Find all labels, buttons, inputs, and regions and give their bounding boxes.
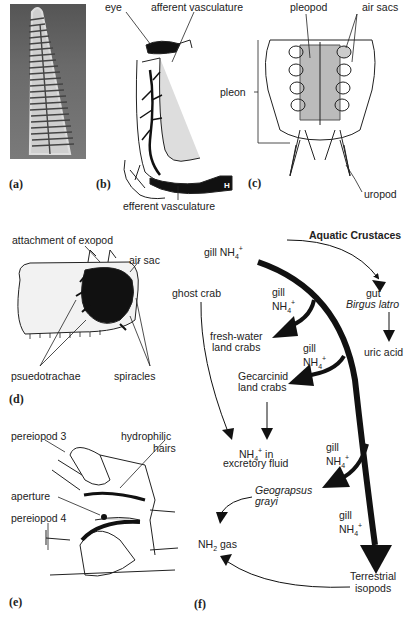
label-land-crabs-1: land crabs xyxy=(212,341,260,353)
label-aperture: aperture xyxy=(11,490,50,502)
label-hairs: hairs xyxy=(153,442,176,454)
label-nh4-3: NH4+ xyxy=(326,452,349,472)
pleon-drawing xyxy=(265,40,375,176)
label-uric-acid: uric acid xyxy=(364,346,403,358)
label-isopods: isopods xyxy=(355,582,391,594)
label-spiracles: spiracles xyxy=(114,370,155,382)
label-ghost-crab: ghost crab xyxy=(172,287,221,299)
label-grayi: grayi xyxy=(255,495,278,507)
panel-label-b: (b) xyxy=(96,177,111,192)
label-nh4-1: NH4+ xyxy=(272,297,295,317)
panel-label-d: (d) xyxy=(9,392,24,407)
label-air-sac: air sac xyxy=(129,254,160,266)
label-terrestrial: Terrestrial xyxy=(350,570,396,582)
aperture-dot xyxy=(101,514,107,520)
label-pereiopod-3: pereiopod 3 xyxy=(11,430,66,442)
label-pseudotrachae: psuedotrachae xyxy=(11,370,80,382)
label-pereiopod-4: pereiopod 4 xyxy=(11,512,66,524)
panel-label-e: (e) xyxy=(9,595,22,610)
pleopod-air-sac-drawing xyxy=(18,250,138,339)
label-nh2-gas: NH2 gas xyxy=(198,538,237,555)
label-attachment-of-exopod: attachment of exopod xyxy=(12,234,113,246)
label-efferent-vasculature: efferent vasculature xyxy=(123,200,215,212)
label-air-sacs: air sacs xyxy=(362,1,398,13)
label-afferent-vasculature: afferent vasculature xyxy=(151,1,243,13)
label-birgus-latro: Birgus latro xyxy=(346,298,399,310)
h-marker: H xyxy=(224,181,230,190)
label-gill-nh4-top: gill NH4+ xyxy=(204,243,243,263)
label-eye: eye xyxy=(105,1,122,13)
label-hydrophilic: hydrophilic xyxy=(121,430,171,442)
panel-label-f: (f) xyxy=(194,597,206,612)
label-pleon: pleon xyxy=(220,86,246,98)
gill-section-drawing xyxy=(124,40,232,199)
label-nh4-4: NH4+ xyxy=(339,520,362,540)
label-pleopod: pleopod xyxy=(290,1,327,13)
label-nh4-2: NH4+ xyxy=(303,353,326,373)
label-land-crabs-2: land crabs xyxy=(238,381,286,393)
label-aquatic-crustaces: Aquatic Crustaces xyxy=(309,229,401,241)
label-excretory-fluid: excretory fluid xyxy=(223,457,288,469)
panel-label-c: (c) xyxy=(248,176,261,191)
label-uropod: uropod xyxy=(364,188,397,200)
